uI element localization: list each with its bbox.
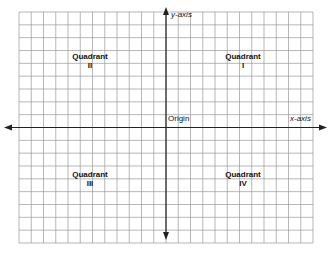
x-axis-right-arrow-icon — [319, 125, 327, 131]
origin-label: Origin — [168, 114, 189, 123]
y-axis — [163, 7, 169, 240]
quadrant-iii-label: Quadrant III — [65, 170, 115, 188]
quadrant-iv-word: Quadrant — [218, 170, 268, 179]
coordinate-plane — [0, 0, 331, 255]
quadrant-iv-label: Quadrant IV — [218, 170, 268, 188]
quadrant-iv-numeral: IV — [218, 179, 268, 188]
quadrant-ii-label: Quadrant II — [65, 52, 115, 70]
y-axis-down-arrow-icon — [163, 232, 169, 240]
quadrant-iii-numeral: III — [65, 179, 115, 188]
y-axis-label: y-axis — [171, 10, 192, 19]
x-axis-left-arrow-icon — [4, 125, 12, 131]
quadrant-iii-word: Quadrant — [65, 170, 115, 179]
quadrant-ii-numeral: II — [65, 61, 115, 70]
quadrant-i-label: Quadrant I — [218, 52, 268, 70]
x-axis-label: x-axis — [290, 114, 311, 123]
quadrant-ii-word: Quadrant — [65, 52, 115, 61]
y-axis-up-arrow-icon — [163, 7, 169, 15]
quadrant-i-word: Quadrant — [218, 52, 268, 61]
quadrant-i-numeral: I — [218, 61, 268, 70]
